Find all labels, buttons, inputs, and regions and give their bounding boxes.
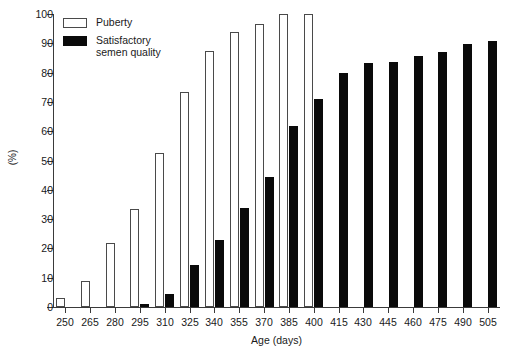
bar-semen-quality-325 [190, 265, 199, 307]
bar-puberty-355 [230, 32, 239, 307]
chart-legend: PubertySatisfactory semen quality [63, 16, 161, 64]
legend-item-semen-quality: Satisfactory semen quality [63, 34, 161, 59]
y-axis-title: (%) [7, 138, 18, 178]
y-tick: 70 [0, 102, 53, 103]
x-tick-mark [115, 308, 116, 313]
x-tick-mark [214, 308, 215, 313]
y-tick: 90 [0, 43, 53, 44]
bar-semen-quality-340 [215, 240, 224, 307]
y-tick-label: 10 [9, 273, 53, 283]
y-tick-label: 0 [9, 302, 53, 312]
x-tick-mark [413, 308, 414, 313]
x-axis-line [53, 307, 500, 308]
bar-semen-quality-385 [289, 126, 298, 307]
x-tick-mark [90, 308, 91, 313]
y-tick-label: 90 [9, 38, 53, 48]
bar-puberty-370 [255, 24, 264, 307]
y-tick: 30 [0, 219, 53, 220]
legend-item-label: Satisfactory semen quality [96, 34, 161, 59]
bar-semen-quality-355 [240, 208, 249, 307]
x-tick-mark [264, 308, 265, 313]
x-tick-mark [239, 308, 240, 313]
bar-chart: 0102030405060708090100 (%) 2502652802953… [0, 0, 514, 356]
filled-square-swatch [63, 36, 87, 46]
x-tick-mark [289, 308, 290, 313]
bar-puberty-280 [106, 243, 115, 307]
y-tick: 100 [0, 14, 53, 15]
bar-semen-quality-505 [488, 41, 497, 307]
y-tick: 80 [0, 73, 53, 74]
y-tick-label: 20 [9, 243, 53, 253]
bar-semen-quality-400 [314, 99, 323, 307]
x-tick-mark [388, 308, 389, 313]
y-tick-label: 30 [9, 214, 53, 224]
y-tick-label: 60 [9, 126, 53, 136]
x-tick-label: 505 [468, 316, 508, 328]
legend-item-puberty: Puberty [63, 16, 161, 29]
x-tick-mark [488, 308, 489, 313]
y-tick-label: 40 [9, 185, 53, 195]
x-tick-mark [463, 308, 464, 313]
bar-puberty-340 [205, 51, 214, 307]
y-tick-label: 100 [9, 9, 53, 19]
x-tick-mark [140, 308, 141, 313]
x-tick-mark [339, 308, 340, 313]
y-axis-line [53, 14, 54, 307]
x-tick-mark [314, 308, 315, 313]
y-tick: 60 [0, 131, 53, 132]
x-tick-mark [65, 308, 66, 313]
bar-semen-quality-460 [414, 56, 423, 307]
bar-puberty-250 [56, 298, 65, 307]
bar-puberty-385 [279, 14, 288, 307]
bar-semen-quality-445 [389, 62, 398, 307]
bar-semen-quality-490 [463, 44, 472, 307]
legend-item-label: Puberty [96, 16, 132, 29]
x-tick-mark [190, 308, 191, 313]
y-tick: 0 [0, 307, 53, 308]
bar-puberty-265 [81, 281, 90, 307]
y-tick-label: 70 [9, 97, 53, 107]
x-tick-mark [438, 308, 439, 313]
x-axis-title: Age (days) [53, 334, 500, 346]
x-tick-mark [165, 308, 166, 313]
y-tick-label: 80 [9, 68, 53, 78]
bar-puberty-295 [130, 209, 139, 307]
y-tick: 10 [0, 278, 53, 279]
bar-puberty-400 [304, 14, 313, 307]
x-tick-mark [363, 308, 364, 313]
bar-semen-quality-310 [165, 294, 174, 307]
bar-puberty-310 [155, 153, 164, 307]
bar-semen-quality-430 [364, 63, 373, 307]
y-tick: 40 [0, 190, 53, 191]
bar-semen-quality-475 [438, 52, 447, 307]
bar-semen-quality-370 [265, 177, 274, 307]
bar-puberty-325 [180, 92, 189, 307]
open-square-swatch [63, 18, 87, 28]
bar-semen-quality-415 [339, 73, 348, 307]
y-tick: 20 [0, 248, 53, 249]
